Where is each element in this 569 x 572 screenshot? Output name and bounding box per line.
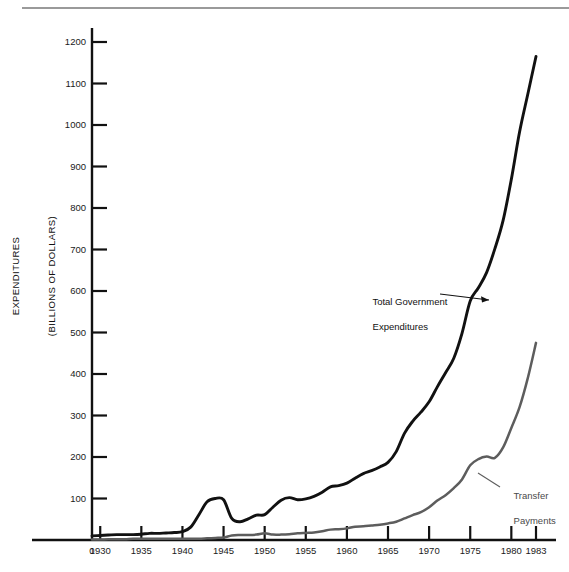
x-tick-label: 1950 [245, 545, 285, 556]
annotation-transfer-payments: Transfer Payments [503, 477, 556, 540]
y-tick-label: 700 [46, 244, 86, 255]
x-tick-label: 1955 [286, 545, 326, 556]
annotation-total-line2: Expenditures [373, 321, 428, 332]
annotation-total-government-expenditures: Total Government Expenditures [362, 283, 447, 346]
annotation-total-line1: Total Government [372, 296, 447, 307]
axis-lines [32, 28, 556, 540]
y-tick-label: 600 [46, 285, 86, 296]
x-tick-label: 1940 [162, 545, 202, 556]
chart-figure: EXPENDITURES (BILLIONS OF DOLLARS) 01002… [0, 0, 569, 572]
y-tick-label: 1000 [46, 119, 86, 130]
y-tick-label: 1200 [46, 36, 86, 47]
y-tick-label: 500 [46, 327, 86, 338]
leader-line-transfer [478, 473, 500, 487]
x-tick-label: 1960 [327, 545, 367, 556]
y-tick-label: 200 [46, 451, 86, 462]
y-tick-label: 100 [46, 493, 86, 504]
x-tick-label: 1965 [368, 545, 408, 556]
y-tick-label: 400 [46, 368, 86, 379]
series-line-transfer-payments [92, 343, 536, 540]
x-tick-label: 1970 [409, 545, 449, 556]
y-tick-label: 900 [46, 161, 86, 172]
x-tick-label: 1983 [516, 545, 556, 556]
series-line-total-government-expenditures [92, 57, 536, 536]
annotation-transfer-line1: Transfer [513, 490, 548, 501]
y-tick-label: 800 [46, 202, 86, 213]
x-tick-label: 1930 [80, 545, 120, 556]
x-tick-label: 1945 [204, 545, 244, 556]
x-tick-label: 1975 [450, 545, 490, 556]
y-tick-label: 300 [46, 410, 86, 421]
x-tick-label: 1935 [121, 545, 161, 556]
annotation-transfer-line2: Payments [514, 515, 556, 526]
y-tick-label: 1100 [46, 78, 86, 89]
